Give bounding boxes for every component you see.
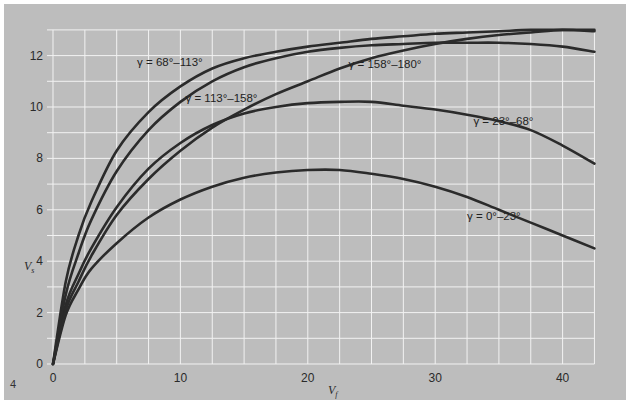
chart-panel: 024681012 010203040 γ = 0°–23°γ = 23°–68…: [0, 0, 630, 404]
curve-label: γ = 113°–158°: [185, 92, 257, 104]
x-tick-label: 10: [174, 371, 188, 385]
curve-label: γ = 0°–23°: [467, 210, 521, 222]
y-tick-label: 2: [36, 306, 43, 320]
curve-label: γ = 23°–68°: [473, 115, 533, 127]
chart-background: [4, 4, 626, 400]
y-tick-label: 10: [30, 100, 44, 114]
y-tick-label: 8: [36, 151, 43, 165]
y-tick-label: 0: [36, 357, 43, 371]
x-tick-label: 30: [429, 371, 443, 385]
x-tick-label: 20: [301, 371, 315, 385]
y-tick-label: 4: [36, 254, 43, 268]
curve-label: γ = 158°–180°: [349, 58, 422, 70]
line-chart: 024681012 010203040 γ = 0°–23°γ = 23°–68…: [0, 0, 630, 404]
y-tick-label: 6: [36, 203, 43, 217]
x-tick-label: 0: [50, 371, 57, 385]
curve-label: γ = 68°–113°: [137, 56, 203, 68]
y-tick-label: 12: [30, 49, 44, 63]
x-tick-label: 40: [556, 371, 570, 385]
figure-number: 4: [10, 378, 16, 390]
